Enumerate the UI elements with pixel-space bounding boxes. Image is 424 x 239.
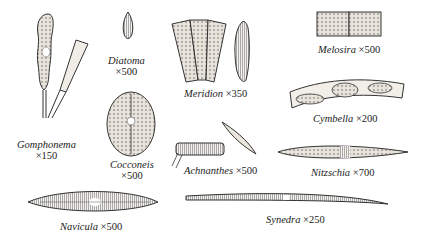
cocconeis-drawing (107, 92, 155, 156)
nitzschia-drawing (278, 146, 408, 158)
label-diatoma: Diatoma×500 (108, 55, 145, 77)
navicula-drawing (28, 192, 158, 212)
cymbella-drawing (290, 80, 404, 108)
label-gomphonema: Gomphonema×150 (17, 139, 76, 161)
label-cocconeis: Cocconeis×500 (110, 159, 154, 181)
achnanthes-drawing (172, 122, 256, 168)
meridion-drawing (172, 20, 249, 82)
label-cymbella: Cymbella ×200 (313, 113, 378, 124)
label-synedra: Synedra ×250 (266, 214, 325, 225)
label-meridion: Meridion ×350 (184, 88, 247, 99)
label-navicula: Navicula ×500 (60, 221, 122, 232)
melosira-drawing (317, 12, 381, 36)
label-nitzschia: Nitzschia ×700 (311, 167, 374, 178)
gomphonema-drawing (37, 14, 88, 118)
label-achnanthes: Achnanthes ×500 (184, 165, 257, 176)
synedra-drawing (186, 194, 388, 204)
label-melosira: Melosira ×500 (318, 44, 380, 55)
diatoma-drawing (123, 12, 133, 39)
